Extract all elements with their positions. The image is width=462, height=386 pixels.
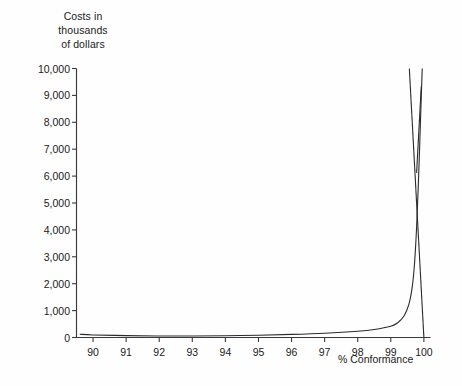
- curve-cost-of-nonconformance: [409, 69, 424, 338]
- axis-tick-marks: [72, 69, 424, 343]
- data-curves: [80, 69, 424, 338]
- plot-area: [0, 0, 462, 386]
- axis-lines: [77, 69, 431, 338]
- axis-spine: [77, 69, 431, 338]
- curve-cost-of-conformance: [80, 69, 422, 337]
- chart-container: Costs in thousands of dollars 01,0002,00…: [0, 0, 462, 386]
